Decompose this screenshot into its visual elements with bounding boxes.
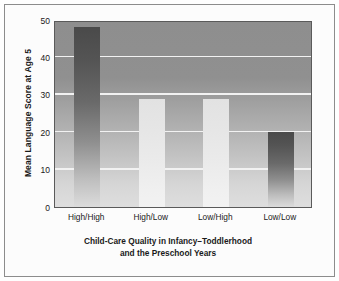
x-axis-title-line-2: and the Preschool Years	[18, 248, 318, 260]
y-axis-title: Mean Language Score at Age 5	[23, 18, 33, 208]
bar	[268, 132, 294, 207]
bar	[203, 99, 229, 207]
x-tick-label: High/Low	[119, 212, 184, 222]
y-tick-label: 0	[24, 203, 50, 213]
bar	[139, 99, 165, 207]
x-tick-label: High/High	[54, 212, 119, 222]
y-tick-label: 50	[24, 16, 50, 26]
x-axis-title-line-1: Child-Care Quality in Infancy–Toddlerhoo…	[84, 236, 252, 246]
x-tick-label: Low/Low	[248, 212, 313, 222]
y-tick-label: 40	[24, 53, 50, 63]
x-tick-label: Low/High	[183, 212, 248, 222]
y-tick-label: 10	[24, 165, 50, 175]
figure: Mean Language Score at Age 5 01020304050…	[0, 0, 339, 281]
plot-area	[54, 21, 312, 208]
y-tick-label: 30	[24, 90, 50, 100]
x-axis-title: Child-Care Quality in Infancy–Toddlerhoo…	[18, 236, 318, 259]
bar	[74, 27, 100, 207]
y-tick-label: 20	[24, 128, 50, 138]
